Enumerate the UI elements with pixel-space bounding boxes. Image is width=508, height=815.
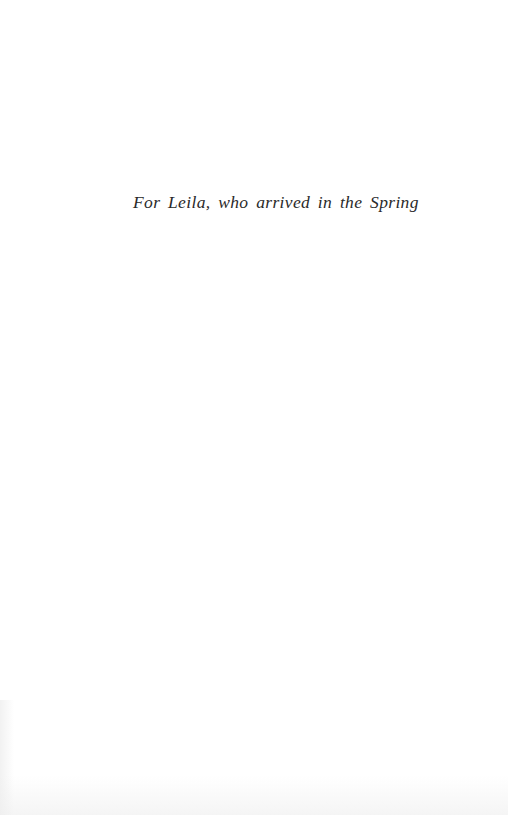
book-page: For Leila, who arrived in the Spring bbox=[0, 0, 508, 815]
scan-edge-shadow-bottom bbox=[0, 775, 508, 815]
scan-edge-shadow-left bbox=[0, 700, 14, 815]
dedication-text: For Leila, who arrived in the Spring bbox=[133, 191, 419, 213]
